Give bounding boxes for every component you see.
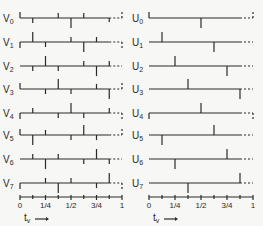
waveform-v1: V1 (3, 32, 122, 52)
row-label: V5 (3, 130, 14, 142)
row-label: U6 (132, 154, 143, 166)
axis-tick-label: 3/4 (91, 201, 103, 210)
waveform-v4: V4 (3, 103, 122, 120)
row-label: U3 (132, 84, 143, 96)
row-label: U5 (132, 130, 143, 142)
axis-tick-label: 3/4 (221, 201, 233, 210)
axis-tick-label: 0 (18, 201, 23, 210)
axis-tick-label: 1 (251, 201, 256, 210)
time-axis: 01/41/23/41tv (147, 195, 256, 224)
axis-tick-label: 1/4 (40, 201, 52, 210)
waveform-u0: U0 (132, 12, 253, 28)
row-label: V2 (3, 61, 14, 73)
row-label: U7 (132, 178, 143, 190)
axis-tick-label: 1/2 (195, 201, 207, 210)
row-label: V4 (3, 108, 14, 120)
waveform-u3: U3 (132, 79, 253, 99)
arrow-right-icon (175, 217, 178, 221)
waveform-v5: V5 (3, 125, 122, 145)
waveform-u6: U6 (132, 149, 253, 169)
time-axis: 01/41/23/41tv (18, 195, 125, 224)
waveform-u5: U5 (132, 125, 253, 145)
axis-tick-label: 1/4 (169, 201, 181, 210)
waveform-u2: U2 (132, 56, 253, 76)
axis-variable-label: tv (24, 212, 31, 224)
row-label: V7 (3, 178, 14, 190)
row-label: V0 (3, 13, 14, 25)
row-label: U1 (132, 37, 143, 49)
waveform-u4: U4 (132, 103, 253, 120)
axis-variable-label: tv (153, 212, 160, 224)
waveform-v3: V3 (3, 79, 122, 99)
left-panel-v-functions: V0V1V2V3V4V5V6V701/41/23/41tv (3, 12, 125, 224)
row-label: U2 (132, 61, 143, 73)
waveform-v0: V0 (3, 12, 122, 28)
row-label: V6 (3, 154, 14, 166)
waveform-v6: V6 (3, 149, 122, 169)
axis-tick-label: 1/2 (65, 201, 77, 210)
right-panel-u-functions: U0U1U2U3U4U5U6U701/41/23/41tv (132, 12, 256, 224)
row-label: V1 (3, 37, 14, 49)
waveform-v7: V7 (3, 173, 122, 193)
walsh-function-diagram: V0V1V2V3V4V5V6V701/41/23/41tvU0U1U2U3U4U… (0, 0, 263, 226)
axis-tick-label: 0 (147, 201, 152, 210)
arrow-right-icon (46, 217, 49, 221)
row-label: U4 (132, 108, 143, 120)
waveform-u7: U7 (132, 173, 253, 193)
row-label: V3 (3, 84, 14, 96)
waveform-u1: U1 (132, 32, 253, 52)
row-label: U0 (132, 13, 143, 25)
axis-tick-label: 1 (120, 201, 125, 210)
waveform-v2: V2 (3, 56, 122, 76)
